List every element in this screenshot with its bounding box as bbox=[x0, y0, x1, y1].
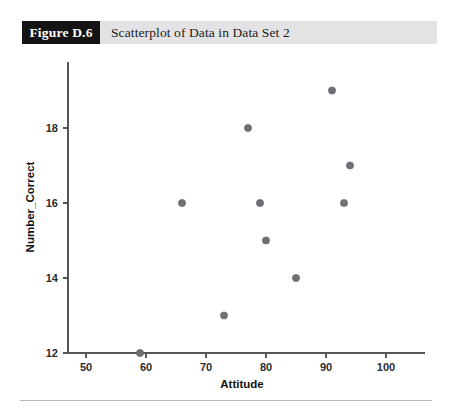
data-point bbox=[328, 87, 335, 94]
y-axis: 12141618 bbox=[46, 62, 68, 359]
x-tick-label: 60 bbox=[140, 361, 152, 373]
x-axis: 5060708090100 bbox=[68, 353, 425, 373]
x-tick-label: 70 bbox=[200, 361, 212, 373]
y-axis-title: Number_Correct bbox=[24, 161, 36, 252]
x-tick-label: 90 bbox=[320, 361, 332, 373]
data-point bbox=[262, 237, 269, 244]
scatterplot-canvas: 12141618 5060708090100 Attitude Number_C… bbox=[0, 0, 452, 400]
data-point bbox=[220, 312, 227, 319]
scatterplot: 12141618 5060708090100 Attitude Number_C… bbox=[0, 0, 452, 400]
footer-divider bbox=[20, 400, 432, 401]
x-tick-label: 100 bbox=[377, 361, 395, 373]
x-tick-label: 50 bbox=[80, 361, 92, 373]
data-point bbox=[256, 199, 263, 206]
data-point bbox=[136, 349, 143, 356]
y-tick-label: 12 bbox=[46, 347, 58, 359]
x-tick-label: 80 bbox=[260, 361, 272, 373]
y-tick-label: 14 bbox=[46, 272, 59, 284]
y-tick-label: 16 bbox=[46, 197, 58, 209]
y-tick-label: 18 bbox=[46, 122, 58, 134]
data-point bbox=[292, 274, 299, 281]
data-point bbox=[346, 162, 353, 169]
data-point bbox=[244, 124, 251, 131]
data-point bbox=[340, 199, 347, 206]
data-points-layer bbox=[136, 87, 353, 357]
data-point bbox=[178, 199, 185, 206]
x-axis-title: Attitude bbox=[220, 378, 263, 390]
